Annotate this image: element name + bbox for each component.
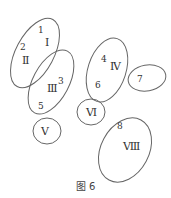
label-VIII: Ⅷ [122,140,140,153]
label-I: Ⅰ [45,36,49,49]
label-IV: Ⅳ [110,60,122,73]
label-4: 4 [101,54,107,64]
label-7: 7 [137,74,143,84]
label-1: 1 [38,25,44,35]
label-8: 8 [117,121,123,131]
figure-caption: 图 6 [0,178,171,193]
clustering-diagram: 1 Ⅰ 2 Ⅱ Ⅲ 3 5 4 Ⅳ 6 7 Ⅴ Ⅵ 8 Ⅷ [0,0,171,198]
label-6: 6 [95,80,101,90]
ellipse-IV [79,33,136,108]
label-III: Ⅲ [47,82,58,95]
ellipse-7 [126,62,168,94]
label-V: Ⅴ [40,125,50,138]
label-II: Ⅱ [22,54,29,67]
label-5: 5 [38,101,44,111]
label-2: 2 [20,42,26,52]
label-VI: Ⅵ [85,106,97,119]
label-3: 3 [58,76,64,86]
